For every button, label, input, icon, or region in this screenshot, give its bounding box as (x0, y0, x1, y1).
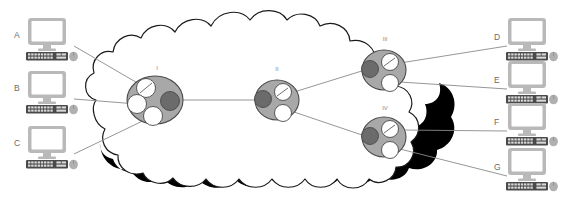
host-e-label: E (494, 75, 500, 85)
node-i-disk-4 (161, 92, 180, 111)
host-a[interactable]: A (14, 18, 78, 61)
node-ii-label: II (275, 66, 279, 72)
host-f[interactable]: F (494, 103, 558, 146)
node-ii-disk-1 (255, 91, 272, 108)
computer-icon-g (506, 148, 558, 191)
node-ii-disk-3 (275, 105, 292, 122)
node-i-disk-2 (128, 95, 147, 114)
link-iii-e (400, 82, 507, 89)
link-iii-d (400, 46, 507, 63)
computer-icon-c (26, 126, 78, 169)
node-iv-disk-1 (362, 128, 379, 145)
node-iii-disk-3 (382, 75, 399, 92)
host-g-label: G (494, 162, 501, 172)
host-c-label: C (14, 138, 20, 148)
host-b-label: B (14, 83, 20, 93)
host-d[interactable]: D (494, 18, 558, 61)
node-iv-disk-3 (382, 142, 399, 159)
host-c[interactable]: C (14, 126, 78, 169)
network-node-iii[interactable]: III (362, 36, 407, 92)
computer-icon-b (26, 71, 78, 114)
host-a-label: A (14, 30, 20, 40)
computer-icon-e (506, 61, 558, 104)
computer-icon-f (506, 103, 558, 146)
computer-icon-d (506, 18, 558, 61)
diagram-canvas: I II III IV (0, 0, 573, 203)
host-b[interactable]: B (14, 71, 78, 114)
node-iii-disk-1 (362, 61, 379, 78)
node-iii-label: III (382, 36, 387, 42)
computer-icon-a (26, 18, 78, 61)
host-g[interactable]: G (494, 148, 558, 191)
node-i-disk-3 (144, 107, 163, 126)
node-iv-label: IV (382, 105, 388, 111)
host-f-label: F (494, 117, 499, 127)
host-d-label: D (494, 32, 500, 42)
network-diagram: I II III IV (0, 0, 573, 203)
host-e[interactable]: E (494, 61, 558, 104)
